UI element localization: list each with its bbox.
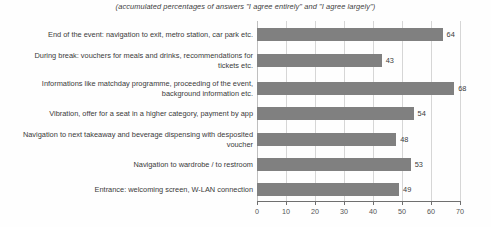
axis-tick-label-60: 60 — [427, 207, 435, 216]
axis-tick-label-10: 10 — [282, 207, 290, 216]
category-label: Navigation to wardrobe / to restroom — [13, 160, 253, 170]
axis-tick-30 — [344, 201, 345, 205]
category-label: Navigation to next takeaway and beverage… — [13, 130, 253, 149]
axis-tick-label-0: 0 — [255, 207, 259, 216]
axis-tick-50 — [402, 201, 403, 205]
axis-tick-20 — [315, 201, 316, 205]
axis-tick-label-70: 70 — [456, 207, 464, 216]
category-label: Informations like matchday programme, pr… — [13, 79, 253, 98]
gridline-70 — [460, 21, 461, 201]
axis-tick-label-20: 20 — [311, 207, 319, 216]
bar[interactable] — [257, 28, 443, 41]
bar-value-label: 53 — [415, 160, 423, 169]
category-label: End of the event: navigation to exit, me… — [13, 30, 253, 40]
category-label: During break: vouchers for meals and dri… — [13, 51, 253, 70]
gridline-60 — [431, 21, 432, 201]
axis-tick-60 — [431, 201, 432, 205]
bar-value-label: 68 — [458, 84, 466, 93]
bar[interactable] — [257, 158, 411, 171]
x-axis-line — [257, 201, 460, 202]
axis-tick-0 — [257, 201, 258, 205]
bar-value-label: 64 — [447, 30, 455, 39]
bar[interactable] — [257, 54, 382, 67]
axis-tick-40 — [373, 201, 374, 205]
axis-tick-label-30: 30 — [340, 207, 348, 216]
category-label: Entrance: welcoming screen, W-LAN connec… — [13, 185, 253, 195]
axis-tick-70 — [460, 201, 461, 205]
bar-chart: (accumulated percentages of answers "I a… — [0, 0, 491, 227]
chart-subtitle: (accumulated percentages of answers "I a… — [0, 2, 491, 12]
bar-value-label: 43 — [386, 56, 394, 65]
axis-tick-label-40: 40 — [369, 207, 377, 216]
axis-tick-label-50: 50 — [398, 207, 406, 216]
category-label: Vibration, offer for a seat in a higher … — [13, 109, 253, 119]
bar-value-label: 54 — [418, 109, 426, 118]
bar[interactable] — [257, 107, 414, 120]
bar[interactable] — [257, 82, 454, 95]
bar[interactable] — [257, 133, 396, 146]
bar[interactable] — [257, 183, 399, 196]
bar-value-label: 48 — [400, 135, 408, 144]
axis-tick-10 — [286, 201, 287, 205]
bar-value-label: 49 — [403, 185, 411, 194]
